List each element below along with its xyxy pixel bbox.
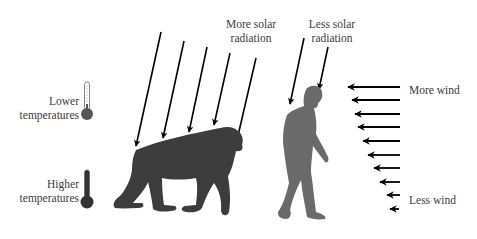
solar-arrow bbox=[319, 47, 328, 89]
lower-temp-line1: Lower bbox=[0, 94, 79, 108]
lower-temperatures-label: Lower temperatures bbox=[0, 94, 79, 122]
hominin-silhouette bbox=[278, 86, 329, 220]
more-solar-label: More solar radiation bbox=[206, 17, 296, 45]
higher-temp-line2: temperatures bbox=[0, 191, 79, 205]
more-solar-line1: More solar bbox=[206, 17, 296, 31]
thermometer-low-icon bbox=[81, 82, 93, 120]
wind-arrows bbox=[348, 87, 400, 209]
more-wind-label: More wind bbox=[409, 83, 460, 97]
solar-arrow bbox=[214, 53, 230, 125]
less-solar-label: Less solar radiation bbox=[292, 17, 372, 45]
higher-temperatures-label: Higher temperatures bbox=[0, 177, 79, 205]
lower-temp-line2: temperatures bbox=[0, 108, 79, 122]
chimpanzee-silhouette bbox=[114, 127, 243, 215]
solar-arrows-quadruped bbox=[136, 32, 256, 146]
less-wind-label: Less wind bbox=[409, 193, 456, 207]
solar-arrow bbox=[163, 41, 184, 138]
solar-arrow bbox=[290, 38, 304, 104]
solar-arrow bbox=[237, 58, 256, 140]
higher-temp-line1: Higher bbox=[0, 177, 79, 191]
thermometer-high-icon bbox=[81, 170, 94, 209]
solar-arrow bbox=[189, 47, 207, 132]
more-solar-line2: radiation bbox=[206, 31, 296, 45]
less-solar-line1: Less solar bbox=[292, 17, 372, 31]
solar-arrow bbox=[136, 32, 161, 146]
less-solar-line2: radiation bbox=[292, 31, 372, 45]
